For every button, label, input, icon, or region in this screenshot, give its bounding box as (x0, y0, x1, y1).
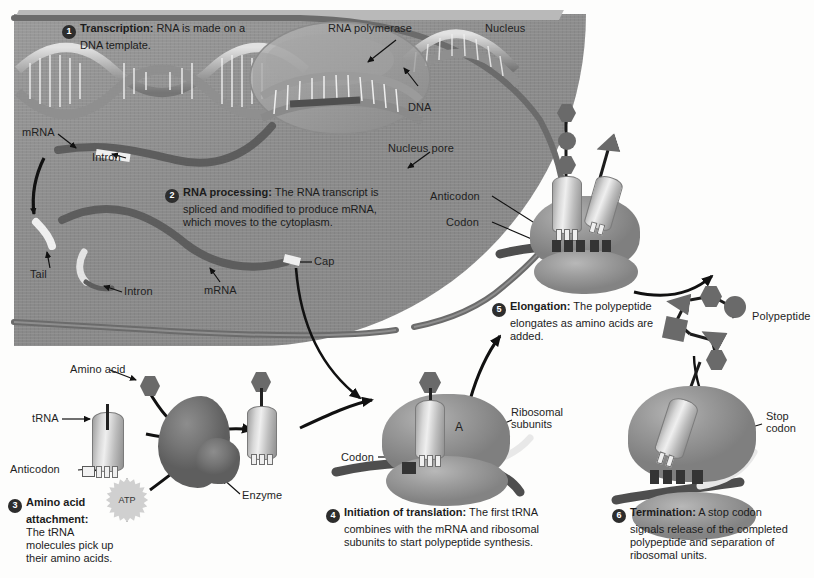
step-4-initiation: 4Initiation of translation: The first tR… (326, 506, 616, 549)
label-dna: DNA (408, 101, 432, 113)
step-5-text-line2: elongates as amino acids are (492, 317, 702, 330)
label-tail: Tail (30, 268, 47, 280)
step-3-text-line4: molecules pick up (8, 539, 168, 552)
step-3-text-line3: The tRNA (8, 526, 168, 539)
label-polypeptide: Polypeptide (752, 310, 811, 322)
step-1-number: 1 (62, 25, 76, 39)
nucleus-texture (14, 14, 586, 346)
anticodon-prong (435, 455, 441, 467)
step-3-amino-acid-attachment: 3Amino acid attachment: The tRNA molecul… (8, 496, 168, 565)
label-ribosomal-line2: subunits (511, 418, 563, 430)
label-stop-codon-line1: Stop (766, 410, 796, 422)
step-1-text-line2: DNA template. (62, 39, 302, 52)
step-6-termination: 6Termination: A stop codon signals relea… (612, 506, 812, 562)
step-4-text-line2: combines with the mRNA and ribosomal (326, 523, 616, 536)
anticodon-prong (251, 454, 257, 465)
step-6-text-line1: A stop codon (696, 506, 762, 518)
diagram-canvas: ATP A (0, 0, 814, 578)
codon-block (590, 240, 599, 252)
label-anticodon-elongation: Anticodon (430, 190, 480, 202)
step-6-number: 6 (612, 509, 626, 523)
nucleus-region (14, 14, 586, 346)
codon-block (676, 470, 685, 484)
codon-block (663, 470, 672, 484)
enzyme-lobe (196, 438, 240, 484)
anticodon-prong (112, 466, 118, 478)
step-6-text-line3: polypeptide and separation of (612, 536, 812, 549)
step-2-text-line3: which moves to the cytoplasm. (165, 216, 425, 229)
a-site-label: A (455, 420, 463, 434)
polypeptide-residue-triangle (593, 133, 620, 159)
step-5-heading: Elongation: (510, 300, 571, 312)
polypeptide-residue-hexagon (706, 350, 727, 370)
step-4-heading: Initiation of translation: (344, 506, 466, 518)
label-intron-top: Intron (92, 151, 121, 163)
anticodon-prong (104, 466, 110, 478)
trna-elongation-p-site (552, 176, 580, 232)
trna-charged (247, 406, 275, 458)
step-2-number: 2 (165, 189, 179, 203)
step-3-heading-line1: Amino acid (26, 496, 85, 508)
step-4-number: 4 (326, 509, 340, 523)
step-2-rna-processing: 2RNA processing: The RNA transcript is s… (165, 186, 425, 229)
step-6-heading: Termination: (630, 506, 696, 518)
label-nucleus: Nucleus (485, 22, 525, 34)
amino-acid-hexagon (140, 376, 160, 396)
step-3-text-line5: their amino acids. (8, 552, 168, 565)
step-5-text-line1: The polypeptide (571, 300, 652, 312)
anticodon-box (82, 466, 95, 477)
codon-block (402, 462, 416, 474)
step-6-text-line4: ribosomal units. (612, 549, 812, 562)
label-codon-initiation: Codon (341, 451, 374, 463)
step-5-text-line3: added. (492, 330, 702, 343)
polypeptide-residue-hexagon (700, 286, 722, 307)
nucleus-top-bevel (14, 10, 564, 20)
trna-free-stalk (106, 404, 109, 430)
step-2-text-line2: spliced and modified to produce mRNA, (165, 203, 425, 216)
anticodon-prong (267, 454, 273, 465)
label-enzyme: Enzyme (242, 489, 282, 501)
label-ribosomal-subunits: Ribosomal subunits (511, 406, 563, 430)
label-rna-polymerase: RNA polymerase (328, 22, 412, 34)
label-nucleus-pore: Nucleus pore (388, 142, 454, 154)
polypeptide-residue-circle (724, 296, 746, 318)
ribosome-small-subunit-elongation (534, 250, 638, 294)
codon-block (576, 240, 585, 252)
step-4-text-line1: The first tRNA (466, 506, 538, 518)
step-1-transcription: 1Transcription: RNA is made on a DNA tem… (62, 22, 302, 52)
anticodon-prong (96, 466, 102, 478)
label-amino-acid: Amino acid (70, 363, 125, 375)
polypeptide-residue-circle (558, 132, 576, 150)
label-trna: tRNA (32, 412, 59, 424)
stop-codon-block (692, 470, 703, 484)
label-stop-codon: Stop codon (766, 410, 796, 434)
label-cap: Cap (314, 255, 334, 267)
step-5-elongation: 5Elongation: The polypeptide elongates a… (492, 300, 702, 343)
step-4-text-line3: subunits to start polypeptide synthesis. (326, 536, 616, 549)
anticodon-prong (259, 454, 265, 465)
step-2-heading: RNA processing: (183, 186, 272, 198)
label-intron-bottom: Intron (124, 285, 153, 297)
label-anticodon-trna: Anticodon (10, 463, 60, 475)
anticodon-prong (419, 455, 425, 467)
codon-block (602, 240, 611, 252)
label-codon-elongation: Codon (446, 216, 479, 228)
label-mrna-top: mRNA (22, 126, 55, 138)
step-6-text-line2: signals release of the completed (612, 523, 812, 536)
trna-in-p-site (415, 400, 443, 458)
ribosome-termination-large (628, 386, 756, 482)
polypeptide-residue-hexagon (557, 156, 576, 174)
anticodon-prong (427, 455, 433, 467)
label-stop-codon-line2: codon (766, 422, 796, 434)
step-2-text-line1: The RNA transcript is (272, 186, 379, 198)
label-mrna-bottom: mRNA (204, 284, 237, 296)
step-3-number: 3 (8, 499, 22, 513)
step-5-number: 5 (492, 303, 506, 317)
codon-block (650, 470, 659, 484)
step-1-heading: Transcription: (80, 22, 153, 34)
codon-block (552, 240, 561, 252)
step-1-text-line1: RNA is made on a (153, 22, 245, 34)
codon-block (564, 240, 573, 252)
label-ribosomal-line1: Ribosomal (511, 406, 563, 418)
step-3-heading-line2: attachment: (26, 513, 88, 525)
